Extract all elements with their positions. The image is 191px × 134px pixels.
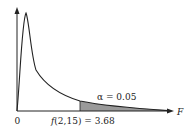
x-axis-label: F bbox=[176, 107, 184, 117]
alpha-label: α = 0.05 bbox=[97, 92, 137, 102]
density-curve bbox=[17, 13, 168, 111]
origin-label: 0 bbox=[15, 116, 21, 126]
critical-args: (2,15) = 3.68 bbox=[54, 116, 115, 126]
critical-value-label: f(2,15) = 3.68 bbox=[50, 116, 115, 126]
f-distribution-chart: F 0 α = 0.05 f(2,15) = 3.68 bbox=[0, 0, 191, 134]
y-axis-arrow-icon bbox=[15, 7, 20, 14]
x-axis-arrow-icon bbox=[167, 109, 174, 114]
